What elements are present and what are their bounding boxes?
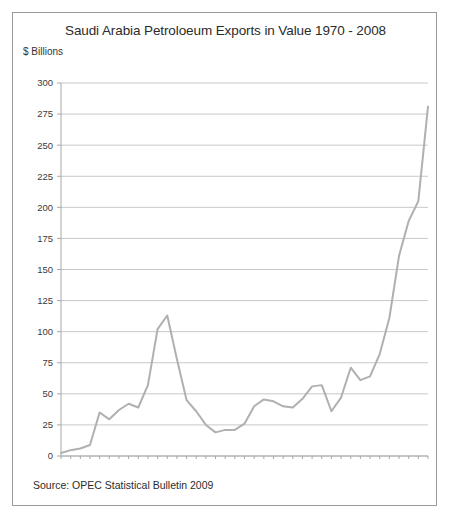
svg-text:225: 225: [37, 171, 53, 182]
line-chart-svg: 0255075100125150175200225250275300 19701…: [13, 59, 438, 459]
chart-page: Saudi Arabia Petroloeum Exports in Value…: [0, 0, 449, 519]
page-title: Saudi Arabia Petroloeum Exports in Value…: [13, 23, 438, 38]
svg-text:300: 300: [37, 77, 53, 88]
svg-text:75: 75: [42, 357, 53, 368]
svg-text:50: 50: [42, 388, 53, 399]
grid-lines: [57, 83, 428, 456]
svg-text:100: 100: [37, 326, 53, 337]
svg-text:25: 25: [42, 419, 53, 430]
y-axis-caption: $ Billions: [23, 46, 63, 57]
y-tick-labels: 0255075100125150175200225250275300: [37, 77, 53, 459]
svg-text:200: 200: [37, 202, 53, 213]
plot-area: 0255075100125150175200225250275300 19701…: [13, 59, 438, 459]
svg-text:275: 275: [37, 108, 53, 119]
svg-text:250: 250: [37, 140, 53, 151]
svg-text:125: 125: [37, 295, 53, 306]
chart-frame: Saudi Arabia Petroloeum Exports in Value…: [12, 12, 437, 506]
svg-text:150: 150: [37, 264, 53, 275]
data-series-line: [61, 107, 428, 453]
svg-text:0: 0: [48, 450, 53, 459]
svg-text:175: 175: [37, 233, 53, 244]
source-caption: Source: OPEC Statistical Bulletin 2009: [33, 479, 213, 491]
